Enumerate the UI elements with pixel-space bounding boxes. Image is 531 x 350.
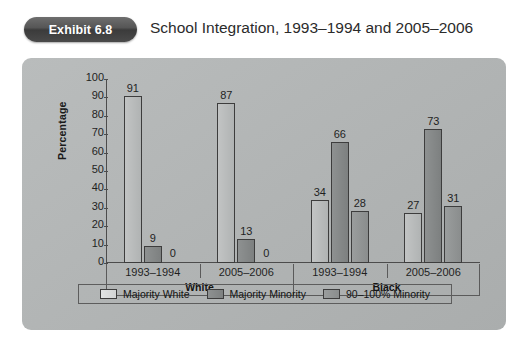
bar	[124, 96, 142, 263]
bar-slot: 66	[331, 142, 349, 263]
legend-label: 90–100% Minority	[346, 288, 430, 300]
bar	[444, 206, 462, 263]
x-axis-category-label: 1993–1994	[293, 266, 387, 278]
y-axis-tick-mark	[104, 134, 108, 135]
y-axis-tick: 90	[72, 97, 112, 98]
bar	[144, 246, 162, 263]
bar-value-label: 87	[220, 89, 232, 101]
y-axis-tick-label: 10	[78, 237, 104, 249]
bar-slot: 9	[144, 246, 162, 263]
bar	[237, 239, 255, 263]
bar	[404, 213, 422, 263]
bar-value-label: 13	[240, 225, 252, 237]
bar	[351, 211, 369, 263]
x-axis-category-label: 2005–2006	[200, 266, 294, 278]
y-axis-tick-label: 40	[78, 181, 104, 193]
bar-slot: 28	[351, 211, 369, 263]
legend-item: Majority Minority	[207, 288, 306, 300]
bar	[331, 142, 349, 263]
y-axis-tick-label: 20	[78, 218, 104, 230]
bar-slot: 13	[237, 239, 255, 263]
bar-value-label: 91	[127, 82, 139, 94]
bar-slot: 31	[444, 206, 462, 263]
chart-panel: Percentage 1009080706050403020100 919087…	[22, 58, 506, 330]
y-axis-tick-mark	[104, 153, 108, 154]
y-axis-tick-mark	[104, 189, 108, 190]
x-axis-category-label: 2005–2006	[387, 266, 481, 278]
legend-label: Majority White	[123, 288, 190, 300]
bar	[217, 103, 235, 263]
bar-value-label: 27	[407, 199, 419, 211]
legend-swatch	[100, 289, 117, 299]
y-axis-tick: 100	[72, 79, 112, 80]
bar-value-label: 9	[150, 232, 156, 244]
x-axis-category-label: 1993–1994	[106, 266, 200, 278]
x-axis-sub-divider	[200, 264, 201, 278]
exhibit-header: Exhibit 6.8 School Integration, 1993–199…	[0, 0, 531, 58]
bar-value-label: 28	[354, 197, 366, 209]
legend-label: Majority Minority	[230, 288, 306, 300]
y-axis-tick-mark	[104, 79, 108, 80]
y-axis-tick-label: 90	[78, 89, 104, 101]
bar	[424, 129, 442, 263]
y-axis-tick: 80	[72, 116, 112, 117]
plot-area: 1009080706050403020100 91908713034662827…	[106, 79, 480, 263]
y-axis-tick-mark	[104, 116, 108, 117]
y-axis-tick: 60	[72, 153, 112, 154]
legend-item: 90–100% Minority	[323, 288, 430, 300]
y-axis-tick-mark	[104, 245, 108, 246]
y-axis-tick-mark	[104, 226, 108, 227]
y-axis-tick: 20	[72, 226, 112, 227]
y-axis-tick-mark	[104, 171, 108, 172]
bar-value-label: 31	[447, 192, 459, 204]
exhibit-badge-label: Exhibit 6.8	[49, 23, 113, 37]
legend-item: Majority White	[100, 288, 190, 300]
bar-slot: 34	[311, 200, 329, 263]
y-axis-tick-label: 100	[78, 71, 104, 83]
y-axis-tick-mark	[104, 208, 108, 209]
bar-value-label: 66	[334, 128, 346, 140]
y-axis-tick-label: 30	[78, 200, 104, 212]
legend-swatch	[323, 289, 340, 299]
y-axis-tick-label: 70	[78, 126, 104, 138]
legend-swatch	[207, 289, 224, 299]
x-axis-sub-divider	[387, 264, 388, 278]
bar-value-label: 0	[263, 247, 269, 259]
y-axis-title: Percentage	[56, 101, 68, 160]
bar-slot: 73	[424, 129, 442, 263]
exhibit-number-badge: Exhibit 6.8	[24, 17, 137, 42]
bar-slot: 91	[124, 96, 142, 263]
bar-slot: 27	[404, 213, 422, 263]
bar-slot: 87	[217, 103, 235, 263]
chart-title: School Integration, 1993–1994 and 2005–2…	[150, 19, 473, 37]
y-axis-tick: 40	[72, 189, 112, 190]
y-axis-tick: 50	[72, 171, 112, 172]
y-axis-tick: 70	[72, 134, 112, 135]
y-axis-tick-label: 60	[78, 145, 104, 157]
bar-value-label: 73	[427, 115, 439, 127]
y-axis-tick-mark	[104, 97, 108, 98]
y-axis-tick: 30	[72, 208, 112, 209]
bar-slot: 0	[257, 262, 275, 263]
y-axis-tick-label: 50	[78, 163, 104, 175]
y-axis-tick: 10	[72, 245, 112, 246]
bar-slot: 0	[164, 262, 182, 263]
bar-value-label: 0	[170, 247, 176, 259]
y-axis-tick-label: 80	[78, 108, 104, 120]
y-axis-tick-label: 0	[78, 255, 104, 267]
bar	[311, 200, 329, 263]
bar-value-label: 34	[314, 186, 326, 198]
chart-legend: Majority WhiteMajority Minority90–100% M…	[78, 284, 452, 304]
